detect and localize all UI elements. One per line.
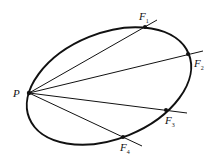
chord-p-f4	[29, 93, 142, 146]
label-f1: F1	[138, 10, 149, 24]
ellipse-chords-diagram: P F1 F2 F3 F4	[0, 0, 217, 164]
point-f1	[143, 25, 147, 29]
point-f2	[186, 52, 190, 56]
label-f3: F3	[164, 114, 175, 128]
chord-p-f1	[29, 20, 157, 93]
point-f3	[164, 108, 168, 112]
label-p: P	[12, 87, 20, 99]
label-f2: F2	[193, 57, 204, 71]
point-f4	[121, 135, 125, 139]
point-p	[27, 91, 31, 95]
ellipse-curve	[9, 5, 208, 164]
chord-p-f3	[29, 93, 187, 113]
label-f4: F4	[119, 141, 130, 155]
